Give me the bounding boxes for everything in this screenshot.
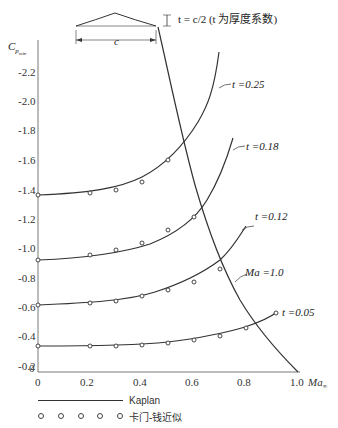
svg-text:-0.6: -0.6 xyxy=(18,301,36,313)
airfoil-diagram: c t = c/2 (t 为厚度系数) xyxy=(76,12,277,47)
svg-text:0.8: 0.8 xyxy=(237,376,251,388)
curve-t012 xyxy=(38,226,246,305)
svg-text:-0.4: -0.4 xyxy=(18,330,36,342)
svg-text:0.6: 0.6 xyxy=(185,376,199,388)
svg-text:-1.0: -1.0 xyxy=(18,242,36,254)
header-annotation: t = c/2 (t 为厚度系数) xyxy=(178,12,277,26)
curve-t005 xyxy=(38,312,277,346)
svg-text:1.0: 1.0 xyxy=(290,376,304,388)
x-ticks: 0 0.2 0.4 0.6 0.8 1.0 Ma∞ xyxy=(35,376,328,389)
curve-labels: t =0.25 t =0.18 t =0.12 Ma =1.0 t =0.05 xyxy=(219,78,315,318)
y-ticks: -2.2 -2.0 -1.8 -1.6 -1.4 -1.2 -1.0 -0.8 … xyxy=(18,66,36,374)
svg-text:-1.8: -1.8 xyxy=(18,124,36,136)
approx-points xyxy=(36,158,278,348)
svg-text:0: 0 xyxy=(29,362,35,374)
svg-text:-0.8: -0.8 xyxy=(18,272,36,284)
chart: c t = c/2 (t 为厚度系数) Cpmin -2.2 -2.0 -1.8… xyxy=(0,0,338,428)
circle-markers-icon xyxy=(38,413,123,419)
legend-item-approx: 卡门-钱近似 xyxy=(38,408,182,424)
curve-ma1 xyxy=(158,27,298,372)
y-axis-label: Cpmin xyxy=(8,40,27,56)
svg-text:-2.0: -2.0 xyxy=(18,95,36,107)
svg-text:0: 0 xyxy=(35,376,41,388)
svg-text:0.4: 0.4 xyxy=(133,376,147,388)
svg-text:-2.2: -2.2 xyxy=(18,66,35,78)
svg-text:-1.6: -1.6 xyxy=(18,154,36,166)
legend-item-kaplan: Kaplan xyxy=(38,392,182,408)
svg-text:-1.4: -1.4 xyxy=(18,184,36,196)
label-t018: t =0.18 xyxy=(246,140,279,152)
label-ma1: Ma =1.0 xyxy=(244,266,284,278)
svg-text:0.2: 0.2 xyxy=(80,376,94,388)
x-axis-label: Ma∞ xyxy=(307,376,328,389)
label-t025: t =0.25 xyxy=(232,78,265,90)
label-t005: t =0.05 xyxy=(282,306,315,318)
chord-label: c xyxy=(114,35,119,47)
curve-t018 xyxy=(38,138,233,260)
line-swatch-icon xyxy=(38,400,123,401)
label-t012: t =0.12 xyxy=(255,210,288,222)
svg-text:-1.2: -1.2 xyxy=(18,213,35,225)
legend: Kaplan 卡门-钱近似 xyxy=(38,392,182,424)
